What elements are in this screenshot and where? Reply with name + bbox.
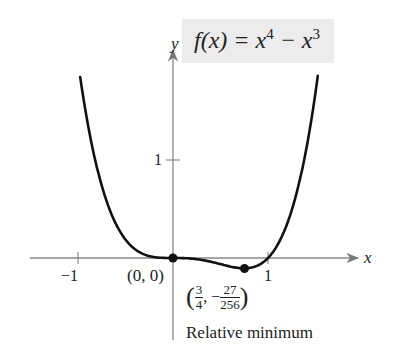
function-curve	[80, 76, 318, 268]
relative-minimum-annotation: Relative minimum	[186, 323, 313, 343]
y-tick-1: 1	[154, 151, 162, 169]
x-tick-neg1: −1	[61, 267, 78, 285]
relative-minimum-point	[240, 264, 249, 273]
x-tick-1: 1	[264, 267, 272, 285]
minimum-label: (34, −27256)	[186, 282, 248, 312]
y-axis-label: y	[171, 34, 179, 54]
origin-point	[169, 254, 178, 263]
x-axis-label: x	[364, 248, 372, 268]
origin-label: (0, 0)	[127, 266, 164, 286]
